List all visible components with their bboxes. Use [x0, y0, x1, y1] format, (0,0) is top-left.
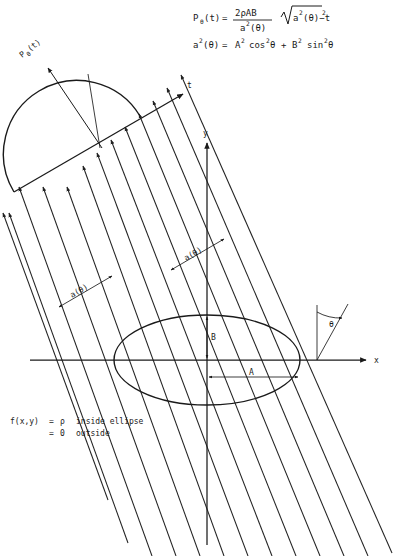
theta-label: θ — [329, 320, 334, 329]
eq1-radicand-t-exponent: 2 — [322, 9, 326, 16]
eq1-denominator: a — [240, 23, 245, 33]
projection-ray — [153, 101, 344, 556]
eq1-denominator-argument: (θ) — [250, 23, 266, 33]
projection-ray — [97, 153, 248, 556]
chord-label-lower: a(θ) — [69, 282, 90, 299]
eq1-lhs-argument: (t) — [204, 13, 220, 23]
cartesian-axes: x y — [30, 129, 379, 545]
projection-ray — [83, 166, 224, 556]
density-equals-1: = — [49, 417, 54, 426]
theta-ray-direction — [317, 304, 348, 360]
projection-ray — [139, 114, 320, 556]
eq1-equals: = — [222, 13, 228, 23]
eq1-radicand-argument: (θ)−t — [303, 13, 330, 23]
t-axis-group: t P θ (t) — [3, 37, 192, 192]
equation-block: P θ (t) = 2ρAB a 2 (θ) a 2 (θ)−t 2 a 2 — [193, 6, 333, 50]
eq2-term1-function: cos — [249, 40, 265, 50]
density-value-inside: ρ — [60, 417, 65, 426]
eq2-lhs-argument: (θ) — [203, 40, 219, 50]
density-equals-2: = — [49, 429, 54, 438]
x-axis-label: x — [374, 356, 379, 365]
density-note: f(x,y) = ρ inside ellipse = 0 outside — [10, 417, 144, 438]
projection-ray — [111, 140, 272, 556]
semi-minor-label: B — [211, 333, 216, 342]
density-value-outside: 0 — [60, 429, 65, 438]
radon-projection-diagram: P θ (t) = 2ρAB a 2 (θ) a 2 (θ)−t 2 a 2 — [0, 0, 394, 556]
density-condition-outside: outside — [76, 429, 110, 438]
eq1-numerator: 2ρAB — [235, 8, 257, 18]
projection-ray — [43, 187, 176, 556]
figure-page: P θ (t) = 2ρAB a 2 (θ) a 2 (θ)−t 2 a 2 — [0, 0, 394, 556]
eq1-lhs: P — [193, 13, 199, 23]
density-function-name: f(x,y) — [10, 417, 39, 426]
eq2-term2-variable: θ — [328, 40, 333, 50]
t-axis-label: t — [187, 81, 192, 90]
theta-angle-group: θ — [317, 304, 348, 360]
theta-arc — [317, 312, 342, 318]
eq2-term1-exponent: 2 — [241, 37, 245, 44]
a-squared-equation: a 2 (θ) = A 2 cos 2 θ + B 2 sin 2 θ — [193, 37, 333, 50]
eq2-plus: + — [281, 40, 287, 50]
y-axis-label: y — [203, 129, 208, 138]
chord-label-upper: a(θ) — [183, 245, 204, 262]
projection-ray — [9, 213, 128, 543]
eq2-term2-function: sin — [307, 40, 323, 50]
density-condition-inside: inside ellipse — [76, 417, 144, 426]
profile-label-argument: (t) — [26, 37, 43, 53]
projection-equation: P θ (t) = 2ρAB a 2 (θ) a 2 (θ)−t 2 — [193, 6, 330, 33]
eq2-term2-base: B — [292, 40, 297, 50]
projection-ray — [19, 187, 152, 556]
projection-ray — [181, 75, 392, 553]
eq2-equals: = — [222, 40, 228, 50]
semi-major-label: A — [249, 368, 254, 377]
projection-ray — [67, 187, 200, 556]
eq1-radicand-base: a — [293, 13, 298, 23]
eq2-lhs-base: a — [193, 40, 198, 50]
profile-curve-label: P θ (t) — [18, 37, 44, 61]
eq2-term2-exponent: 2 — [298, 37, 302, 44]
eq2-term1-variable: θ — [270, 40, 275, 50]
projection-profile-curve — [3, 80, 140, 192]
